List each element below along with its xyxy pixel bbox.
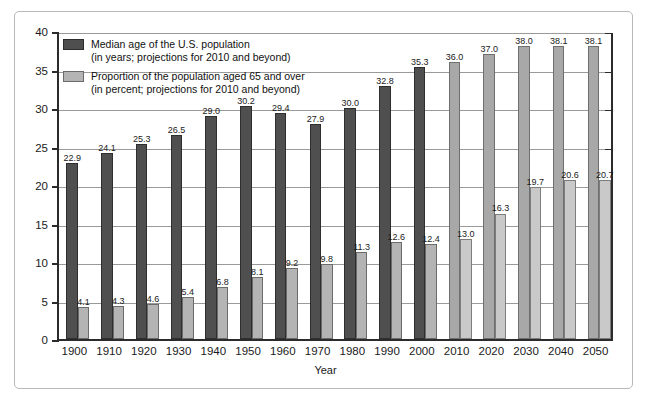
x-axis-tick-label: 1900 — [62, 345, 88, 357]
bar — [78, 307, 89, 339]
y-axis-tick-label: 30 — [8, 104, 48, 116]
bar-value-label: 37.0 — [480, 45, 498, 54]
bar — [599, 180, 610, 339]
y-axis-tick-label: 35 — [8, 66, 48, 78]
y-tick-mark — [52, 148, 59, 150]
y-axis-tick-label: 20 — [8, 181, 48, 193]
bar — [275, 113, 286, 339]
bar-value-label: 4.1 — [77, 298, 90, 307]
bar — [379, 86, 390, 339]
legend-line1: Proportion of the population aged 65 and… — [91, 70, 305, 82]
x-axis-tick-label: 1930 — [166, 345, 192, 357]
bar-value-label: 4.6 — [147, 295, 160, 304]
bar — [495, 214, 506, 340]
y-axis-tick-label: 5 — [8, 297, 48, 309]
x-axis-tick-label: 1950 — [235, 345, 261, 357]
population-age-bar-chart: 0510152025303540 22.94.124.14.325.34.626… — [0, 0, 651, 406]
bar-value-label: 25.3 — [133, 135, 151, 144]
bar — [252, 277, 263, 339]
bar — [171, 135, 182, 339]
bar — [356, 252, 367, 339]
bar — [564, 180, 575, 339]
y-axis-tick-label: 15 — [8, 220, 48, 232]
x-axis-tick-label: 1910 — [96, 345, 122, 357]
bar-value-label: 16.3 — [492, 204, 510, 213]
y-tick-mark — [52, 225, 59, 227]
chart-legend: Median age of the U.S. population (in ye… — [63, 38, 383, 102]
bar-value-label: 4.3 — [112, 297, 125, 306]
x-axis-tick-label: 2040 — [548, 345, 574, 357]
y-tick-mark-right — [605, 33, 611, 34]
bar-value-label: 26.5 — [168, 126, 186, 135]
legend-line2: (in percent; projections for 2010 and be… — [91, 83, 300, 95]
y-axis-tick-label: 25 — [8, 143, 48, 155]
bar — [66, 163, 77, 339]
bar — [483, 54, 494, 339]
y-tick-mark — [52, 302, 59, 304]
x-axis-tick-label: 1960 — [270, 345, 296, 357]
bar — [530, 187, 541, 339]
bar-value-label: 9.8 — [321, 255, 334, 264]
y-axis-tick-label: 0 — [8, 335, 48, 347]
bar — [553, 46, 564, 339]
bar — [240, 106, 251, 339]
legend-line1: Median age of the U.S. population — [91, 38, 250, 50]
bar-value-label: 19.7 — [527, 178, 545, 187]
bar — [449, 62, 460, 339]
x-axis-tick-label: 1940 — [201, 345, 227, 357]
bar-value-label: 29.0 — [202, 107, 220, 116]
bar-value-label: 8.1 — [251, 268, 264, 277]
bar-value-label: 12.4 — [422, 235, 440, 244]
bar — [321, 264, 332, 339]
x-axis-tick-label: 2010 — [444, 345, 470, 357]
legend-item-proportion-65: Proportion of the population aged 65 and… — [63, 70, 383, 95]
bar-value-label: 22.9 — [63, 154, 81, 163]
legend-line2: (in years; projections for 2010 and beyo… — [91, 51, 291, 63]
y-tick-mark-right — [605, 72, 611, 73]
bar — [391, 242, 402, 339]
y-axis-tick-label: 40 — [8, 27, 48, 39]
x-axis-title: Year — [0, 364, 651, 376]
bar-value-label: 38.1 — [550, 37, 568, 46]
bar-value-label: 9.2 — [286, 259, 299, 268]
bar — [518, 46, 529, 339]
legend-swatch-light — [63, 71, 84, 82]
bar-value-label: 24.1 — [98, 144, 116, 153]
bar — [217, 287, 228, 339]
x-axis-tick-label: 2030 — [513, 345, 539, 357]
bar-value-label: 5.4 — [182, 288, 195, 297]
legend-swatch-dark — [63, 39, 84, 50]
legend-label-median-age: Median age of the U.S. population (in ye… — [91, 38, 291, 63]
bar-value-label: 29.4 — [272, 104, 290, 113]
legend-item-median-age: Median age of the U.S. population (in ye… — [63, 38, 383, 63]
y-tick-mark — [52, 263, 59, 265]
bar-value-label: 38.1 — [585, 37, 603, 46]
bar-value-label: 35.3 — [411, 58, 429, 67]
y-tick-mark-right — [605, 110, 611, 111]
legend-label-proportion-65: Proportion of the population aged 65 and… — [91, 70, 305, 95]
bar-value-label: 11.3 — [353, 243, 370, 252]
bar-value-label: 12.6 — [388, 233, 406, 242]
x-axis-tick-label: 1990 — [374, 345, 400, 357]
x-axis-tick-label: 1970 — [305, 345, 331, 357]
y-tick-mark — [52, 186, 59, 188]
bar — [414, 67, 425, 339]
bar — [425, 244, 436, 339]
bar — [205, 116, 216, 339]
x-axis-tick-label: 2000 — [409, 345, 435, 357]
bar — [588, 46, 599, 339]
x-axis-tick-label: 2020 — [479, 345, 505, 357]
bar — [147, 304, 158, 339]
y-tick-mark — [52, 109, 59, 111]
bar-value-label: 36.0 — [446, 53, 464, 62]
x-axis-tick-label: 1920 — [131, 345, 157, 357]
y-axis-labels: 0510152025303540 — [0, 33, 48, 341]
bar — [310, 124, 321, 339]
bar — [344, 108, 355, 339]
bar — [101, 153, 112, 339]
y-axis-tick-label: 10 — [8, 258, 48, 270]
x-axis-tick-label: 2050 — [583, 345, 609, 357]
bar-value-label: 38.0 — [515, 37, 533, 46]
y-tick-mark-right — [605, 149, 611, 150]
bar-value-label: 13.0 — [457, 230, 475, 239]
